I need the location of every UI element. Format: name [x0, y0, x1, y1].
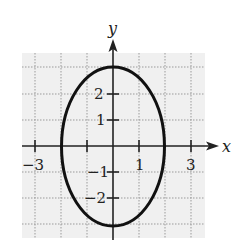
x-tick-label-3: 3: [186, 156, 196, 174]
y-tick-label-neg1: −1: [87, 163, 109, 181]
y-axis-label: y: [107, 19, 118, 38]
x-axis-label: x: [222, 137, 231, 156]
y-tick-label-2: 2: [94, 85, 104, 103]
y-tick-label-1: 1: [96, 111, 106, 129]
y-tick-label-neg2: −2: [84, 189, 106, 207]
x-tick-label-1: 1: [135, 156, 145, 174]
ellipse-chart: x y −3 1 3 2 1 −1 −2: [0, 0, 240, 250]
x-tick-label-neg3: −3: [22, 156, 44, 174]
